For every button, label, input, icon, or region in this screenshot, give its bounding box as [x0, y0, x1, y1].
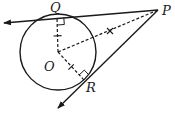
label-o: O: [44, 59, 55, 74]
radius-oq: [57, 18, 58, 52]
right-angle-mark-r: [79, 70, 89, 75]
tangent-line-pr: [58, 10, 158, 108]
radius-or: [58, 52, 84, 80]
label-q: Q: [50, 0, 61, 15]
label-r: R: [85, 80, 96, 95]
cross-mark-op: [107, 28, 113, 34]
tangent-circle-diagram: Q P O R: [0, 0, 175, 114]
segment-op: [58, 10, 158, 52]
label-p: P: [161, 3, 171, 18]
